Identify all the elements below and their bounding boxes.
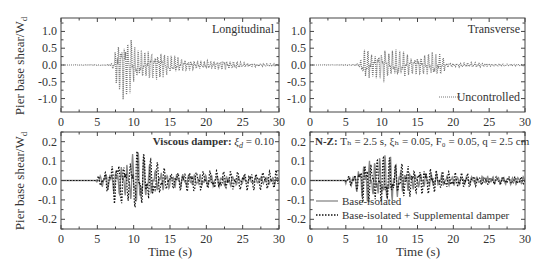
x-tick-label: 5 xyxy=(343,232,349,246)
x-tick-label: 5 xyxy=(94,115,100,129)
x-tick-label: 30 xyxy=(519,115,531,129)
panel-annotation: Viscous damper: ξd = 0.10 xyxy=(153,135,275,150)
x-tick-label: 15 xyxy=(412,115,424,129)
x-tick-label: 30 xyxy=(273,115,285,129)
x-tick-label: 0 xyxy=(307,115,313,129)
ylabel-top: Pier base shear/Wd xyxy=(12,16,29,115)
y-tick-label: 0.0 xyxy=(291,58,306,72)
panel-title: Longitudinal xyxy=(212,22,275,36)
y-tick-label: -0.5 xyxy=(38,75,57,89)
x-tick-label: 10 xyxy=(376,232,388,246)
y-tick-label: -0.1 xyxy=(287,193,306,207)
x-tick-label: 20 xyxy=(447,115,459,129)
ylabel-bottom: Pier base shear/Wd xyxy=(12,131,29,230)
y-tick-label: -0.5 xyxy=(287,75,306,89)
y-tick-label: 1.0 xyxy=(42,24,57,38)
series-group xyxy=(61,40,279,100)
x-tick-label: 25 xyxy=(483,232,495,246)
x-tick-label: 20 xyxy=(447,232,459,246)
y-tick-label: 0.2 xyxy=(291,135,306,149)
y-tick-label: -1.0 xyxy=(287,92,306,106)
y-tick-label: 0.0 xyxy=(42,58,57,72)
figure: 0510152025301.00.50.0-0.5-1.0Longitudina… xyxy=(0,0,552,269)
y-tick-label: 0.5 xyxy=(42,41,57,55)
y-tick-label: -0.2 xyxy=(38,212,57,226)
y-tick-label: 0.0 xyxy=(42,174,57,188)
panel-viscous-damper: 0510152025300.20.10.0-0.1-0.2Viscous dam… xyxy=(38,132,285,246)
panel-longitudinal: 0510152025301.00.50.0-0.5-1.0Longitudina… xyxy=(38,18,285,129)
x-tick-label: 10 xyxy=(376,115,388,129)
x-tick-label: 30 xyxy=(519,232,531,246)
x-tick-label: 0 xyxy=(58,232,64,246)
series-group xyxy=(310,49,525,82)
x-tick-label: 25 xyxy=(237,115,249,129)
legend-label: Base-isolated + Supplemental damper xyxy=(342,209,510,221)
panel-nz-isolator: 0510152025300.20.10.0-0.1-0.2N-Z: Tₕ = 2… xyxy=(287,132,531,246)
x-tick-label: 10 xyxy=(128,115,140,129)
y-tick-label: 1.0 xyxy=(291,24,306,38)
x-tick-label: 5 xyxy=(343,115,349,129)
x-tick-label: 0 xyxy=(307,232,313,246)
legend-label: Base-isolated xyxy=(342,195,402,207)
series-line-uncontrolled xyxy=(61,40,279,100)
legend: Uncontrolled xyxy=(439,90,520,104)
x-tick-label: 20 xyxy=(200,115,212,129)
y-tick-label: -0.2 xyxy=(287,212,306,226)
panel-title: Transverse xyxy=(468,22,520,36)
y-tick-label: 0.5 xyxy=(291,41,306,55)
panel-annotation: N-Z: Tₕ = 2.5 s, ξₕ = 0.05, F₀ = 0.05, q… xyxy=(315,135,530,148)
xlabel-left: Time (s) xyxy=(148,244,192,259)
y-tick-label: 0.1 xyxy=(42,154,57,168)
xlabel-right: Time (s) xyxy=(396,244,440,259)
series-line-base-isolated-supplemental-damper xyxy=(61,151,279,207)
x-tick-label: 30 xyxy=(273,232,285,246)
legend: Base-isolatedBase-isolated + Supplementa… xyxy=(316,195,510,221)
x-tick-label: 25 xyxy=(483,115,495,129)
svg-text:Uncontrolled: Uncontrolled xyxy=(457,90,520,104)
x-tick-label: 20 xyxy=(200,232,212,246)
y-tick-label: -0.1 xyxy=(38,193,57,207)
y-tick-label: 0.1 xyxy=(291,154,306,168)
x-tick-label: 15 xyxy=(164,115,176,129)
series-line-uncontrolled xyxy=(310,49,525,82)
y-tick-label: 0.0 xyxy=(291,174,306,188)
series-line-base-isolated xyxy=(61,153,279,202)
x-tick-label: 25 xyxy=(237,232,249,246)
y-tick-label: 0.2 xyxy=(42,135,57,149)
x-tick-label: 5 xyxy=(94,232,100,246)
series-group xyxy=(61,151,279,207)
y-tick-label: -1.0 xyxy=(38,92,57,106)
x-tick-label: 10 xyxy=(128,232,140,246)
panel-transverse: 0510152025301.00.50.0-0.5-1.0TransverseU… xyxy=(287,18,531,129)
x-tick-label: 0 xyxy=(58,115,64,129)
